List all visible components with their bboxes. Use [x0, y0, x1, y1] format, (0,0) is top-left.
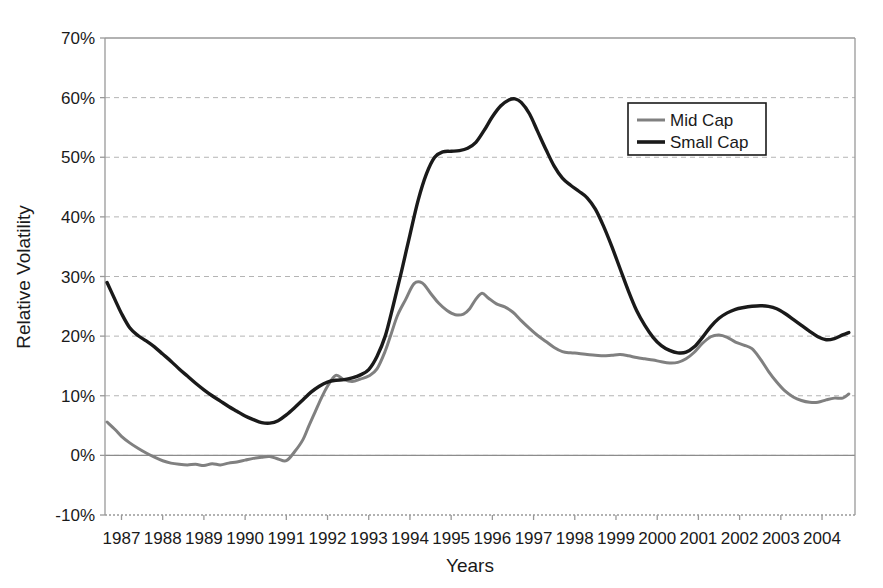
x-tick-label: 1995	[432, 529, 470, 548]
y-tick-label: -10%	[55, 506, 95, 525]
legend-label: Small Cap	[670, 133, 748, 152]
x-axis-title: Years	[446, 555, 494, 576]
x-tick-label: 2003	[762, 529, 800, 548]
x-tick-label: 2001	[679, 529, 717, 548]
x-tick-label: 1996	[473, 529, 511, 548]
relative-volatility-line-chart: 70%60%50%40%30%20%10%0%-10% 198719881989…	[0, 0, 883, 588]
x-tick-label: 1988	[144, 529, 182, 548]
x-tick-label: 1999	[597, 529, 635, 548]
x-tick-label: 1992	[309, 529, 347, 548]
x-tick-label: 1994	[391, 529, 429, 548]
y-tick-label: 60%	[61, 89, 95, 108]
x-tick-label: 1990	[226, 529, 264, 548]
x-tick-label: 2000	[638, 529, 676, 548]
y-tick-label: 30%	[61, 268, 95, 287]
x-tick-label: 1993	[350, 529, 388, 548]
y-tick-label: 20%	[61, 327, 95, 346]
y-tick-label: 10%	[61, 387, 95, 406]
y-tick-label: 0%	[70, 446, 95, 465]
legend-label: Mid Cap	[670, 111, 733, 130]
x-tick-label: 1991	[267, 529, 305, 548]
x-tick-label: 2002	[721, 529, 759, 548]
y-tick-label: 70%	[61, 29, 95, 48]
x-tick-label: 1987	[103, 529, 141, 548]
y-tick-label: 50%	[61, 148, 95, 167]
chart-legend: Mid CapSmall Cap	[628, 103, 766, 155]
y-axis-title: Relative Volatility	[13, 205, 34, 349]
x-tick-label: 1989	[185, 529, 223, 548]
x-tick-label: 1998	[556, 529, 594, 548]
chart-container: 70%60%50%40%30%20%10%0%-10% 198719881989…	[0, 0, 883, 588]
y-tick-label: 40%	[61, 208, 95, 227]
x-tick-label: 1997	[515, 529, 553, 548]
x-tick-label: 2004	[803, 529, 841, 548]
chart-background	[0, 0, 883, 588]
